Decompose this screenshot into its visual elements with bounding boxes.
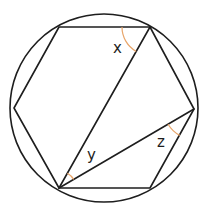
diagonal-bottomleft-right (59, 109, 194, 188)
diagonal-bottomleft-topright (59, 27, 150, 188)
angle-x-arc (122, 27, 136, 51)
angle-y-arc (67, 173, 73, 179)
angle-x-label: x (113, 39, 122, 57)
angle-y-label: y (87, 146, 96, 164)
hexagon-in-circle-diagram: x y z (0, 0, 209, 207)
angle-z-arc (168, 124, 180, 135)
angle-z-label: z (157, 133, 165, 151)
